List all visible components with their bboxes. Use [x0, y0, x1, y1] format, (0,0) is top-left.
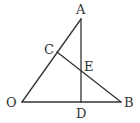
point-label-d: D	[76, 106, 86, 121]
point-label-b: B	[124, 95, 134, 110]
figure-canvas: A C E O D B	[0, 0, 140, 123]
point-label-c: C	[44, 42, 54, 57]
point-label-e: E	[84, 59, 94, 74]
geometry-figure: A C E O D B	[0, 0, 140, 123]
point-label-a: A	[75, 2, 86, 17]
segment-oa	[22, 19, 81, 102]
point-label-o: O	[6, 95, 17, 110]
